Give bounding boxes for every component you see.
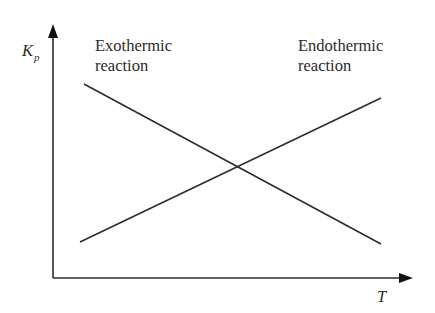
exothermic-label-line1: Exothermic: [95, 36, 172, 56]
y-axis-label: Kp: [22, 41, 39, 62]
kp-vs-temperature-diagram: Kp Exothermic reaction Endothermic react…: [0, 0, 435, 313]
exothermic-line: [84, 84, 381, 244]
y-axis-arrow-icon: [48, 24, 58, 38]
exothermic-label: Exothermic reaction: [95, 36, 172, 76]
x-axis-label: T: [377, 287, 386, 307]
exothermic-label-line2: reaction: [95, 56, 172, 76]
endothermic-label-line2: reaction: [298, 56, 383, 76]
endothermic-label-line1: Endothermic: [298, 36, 383, 56]
y-axis-label-main: K: [22, 41, 33, 60]
endothermic-label: Endothermic reaction: [298, 36, 383, 76]
x-axis-arrow-icon: [399, 273, 413, 283]
y-axis-label-subscript: p: [34, 51, 40, 63]
